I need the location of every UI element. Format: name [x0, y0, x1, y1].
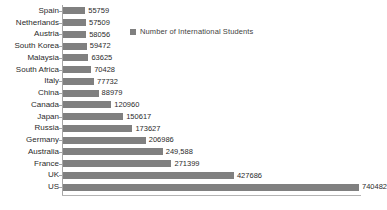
axis-tick [59, 70, 62, 71]
bar-row: China88979 [0, 87, 368, 99]
bar[interactable] [63, 31, 86, 38]
bar[interactable] [63, 148, 163, 155]
bar-value-label: 59472 [90, 42, 111, 50]
category-label: South Korea [0, 42, 59, 50]
bar-value-label: 173627 [135, 125, 160, 133]
bar-and-label: 271399 [63, 158, 200, 170]
bar[interactable] [63, 43, 87, 50]
bar-value-label: 249,588 [166, 148, 193, 156]
axis-tick [59, 164, 62, 165]
bar-row: Canada120960 [0, 99, 368, 111]
bar-row: South Africa70428 [0, 64, 368, 76]
axis-tick [59, 11, 62, 12]
bar[interactable] [63, 19, 86, 26]
axis-tick [59, 105, 62, 106]
category-label: Japan [0, 113, 59, 121]
bar-value-label: 271399 [174, 160, 199, 168]
bar[interactable] [63, 125, 132, 132]
bar-value-label: 740482 [362, 183, 387, 191]
category-label: US [0, 183, 59, 191]
bar-value-label: 88979 [102, 89, 123, 97]
axis-tick [59, 81, 62, 82]
bar[interactable] [63, 54, 88, 61]
bar-row: South Korea59472 [0, 40, 368, 52]
bar-and-label: 740482 [63, 181, 387, 193]
category-label: Germany [0, 136, 59, 144]
bar-value-label: 77732 [97, 78, 118, 86]
bar-row: Germany206986 [0, 134, 368, 146]
axis-tick [59, 187, 62, 188]
axis-tick [59, 23, 62, 24]
bar-and-label: 55759 [63, 5, 109, 17]
bar-value-label: 120960 [114, 101, 139, 109]
bar-value-label: 206986 [149, 136, 174, 144]
value-axis-baseline [62, 195, 361, 196]
bar[interactable] [63, 137, 146, 144]
bar-value-label: 57509 [89, 19, 110, 27]
bar-value-label: 58056 [89, 31, 110, 39]
bar-and-label: 70428 [63, 64, 115, 76]
category-label: Canada [0, 101, 59, 109]
category-label: China [0, 89, 59, 97]
bar-and-label: 59472 [63, 40, 111, 52]
bar-and-label: 249,588 [63, 146, 193, 158]
category-label: Italy [0, 77, 59, 85]
bar-and-label: 150617 [63, 111, 151, 123]
axis-tick [59, 46, 62, 47]
axis-tick [59, 93, 62, 94]
category-label: UK [0, 171, 59, 179]
bar[interactable] [63, 160, 171, 167]
bar[interactable] [63, 101, 111, 108]
category-label: France [0, 160, 59, 168]
bar[interactable] [63, 184, 359, 191]
bar-row: UK427686 [0, 170, 368, 182]
bar[interactable] [63, 172, 234, 179]
bar-row: Italy77732 [0, 76, 368, 88]
axis-tick [59, 117, 62, 118]
axis-tick [59, 175, 62, 176]
bar[interactable] [63, 90, 99, 97]
bar-and-label: 427686 [63, 170, 262, 182]
bar[interactable] [63, 66, 91, 73]
bar-value-label: 55759 [88, 7, 109, 15]
bar-value-label: 63625 [91, 54, 112, 62]
bar-row: Russia173627 [0, 123, 368, 135]
bar-row: Australia249,588 [0, 146, 368, 158]
bar-value-label: 70428 [94, 66, 115, 74]
category-label: Austria [0, 30, 59, 38]
category-label: Russia [0, 124, 59, 132]
axis-tick [59, 128, 62, 129]
bar[interactable] [63, 7, 85, 14]
axis-tick [59, 58, 62, 59]
category-label: Netherlands [0, 19, 59, 27]
legend-swatch-icon [130, 29, 136, 35]
bar-and-label: 88979 [63, 87, 122, 99]
bar-and-label: 173627 [63, 123, 160, 135]
bar-and-label: 63625 [63, 52, 112, 64]
category-label: South Africa [0, 66, 59, 74]
axis-tick [59, 140, 62, 141]
bar-and-label: 58056 [63, 29, 110, 41]
bar-and-label: 120960 [63, 99, 139, 111]
category-label: Spain [0, 7, 59, 15]
axis-tick [59, 34, 62, 35]
bar-row: Malaysia63625 [0, 52, 368, 64]
category-label: Australia [0, 148, 59, 156]
category-label: Malaysia [0, 54, 59, 62]
bar-and-label: 57509 [63, 17, 110, 29]
bar-value-label: 150617 [126, 113, 151, 121]
bar-row: US740482 [0, 181, 368, 193]
bar-and-label: 206986 [63, 134, 174, 146]
bar-row: Spain55759 [0, 5, 368, 17]
bar[interactable] [63, 113, 123, 120]
chart-legend: Number of International Students [130, 28, 253, 36]
bar-row: Japan150617 [0, 111, 368, 123]
bar[interactable] [63, 78, 94, 85]
axis-tick [59, 152, 62, 153]
bar-value-label: 427686 [237, 172, 262, 180]
bar-and-label: 77732 [63, 76, 118, 88]
legend-label: Number of International Students [140, 28, 253, 36]
bar-row: France271399 [0, 158, 368, 170]
